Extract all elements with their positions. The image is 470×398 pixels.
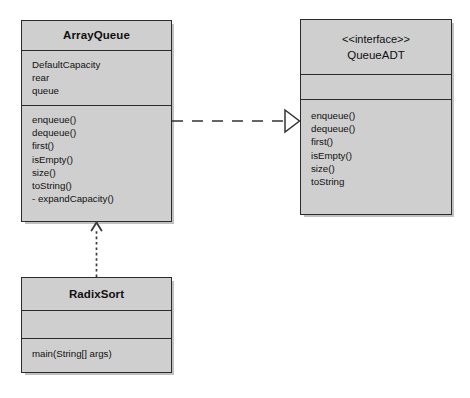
operations-compartment-queueadt: enqueue() dequeue() first() isEmpty() si… bbox=[301, 99, 451, 213]
operation-item: - expandCapacity() bbox=[32, 192, 171, 205]
attributes-compartment-queueadt bbox=[301, 74, 451, 99]
operation-item: enqueue() bbox=[32, 113, 171, 126]
class-name-radixsort: RadixSort bbox=[69, 287, 124, 302]
operations-compartment-radixsort: main(String[] args) bbox=[22, 338, 171, 371]
attribute-item: DefaultCapacity bbox=[32, 58, 171, 71]
operation-item: enqueue() bbox=[311, 109, 451, 122]
attributes-compartment-radixsort bbox=[22, 310, 171, 338]
class-box-radixsort[interactable]: RadixSort main(String[] args) bbox=[21, 277, 172, 373]
dependency-arrow-radixsort-to-arrayqueue bbox=[92, 223, 102, 278]
realization-arrow-arrayqueue-to-queueadt bbox=[172, 110, 300, 132]
operation-item: size() bbox=[32, 166, 171, 179]
operation-list-arrayqueue: enqueue() dequeue() first() isEmpty() si… bbox=[22, 106, 171, 205]
hollow-triangle-arrowhead-icon bbox=[285, 110, 300, 132]
class-box-arrayqueue[interactable]: ArrayQueue DefaultCapacity rear queue en… bbox=[21, 20, 172, 222]
operation-item: dequeue() bbox=[32, 126, 171, 139]
operation-list-radixsort: main(String[] args) bbox=[22, 339, 171, 360]
class-title-compartment-queueadt: <<interface>> QueueADT bbox=[301, 20, 451, 74]
attributes-compartment-arrayqueue: DefaultCapacity rear queue bbox=[22, 50, 171, 105]
operations-compartment-arrayqueue: enqueue() dequeue() first() isEmpty() si… bbox=[22, 105, 171, 220]
operation-item: size() bbox=[311, 162, 451, 175]
operation-item: first() bbox=[32, 139, 171, 152]
attribute-item: queue bbox=[32, 84, 171, 97]
class-name-queueadt: QueueADT bbox=[347, 47, 405, 63]
class-name-arrayqueue: ArrayQueue bbox=[63, 28, 130, 43]
operation-item: isEmpty() bbox=[32, 153, 171, 166]
uml-class-diagram: ArrayQueue DefaultCapacity rear queue en… bbox=[0, 0, 470, 398]
attribute-item: rear bbox=[32, 71, 171, 84]
operation-list-queueadt: enqueue() dequeue() first() isEmpty() si… bbox=[301, 100, 451, 188]
class-title-compartment-radixsort: RadixSort bbox=[22, 278, 171, 310]
operation-item: dequeue() bbox=[311, 122, 451, 135]
operation-item: toString bbox=[311, 175, 451, 188]
operation-item: toString() bbox=[32, 179, 171, 192]
class-box-queueadt[interactable]: <<interface>> QueueADT enqueue() dequeue… bbox=[300, 19, 452, 215]
operation-item: first() bbox=[311, 135, 451, 148]
operation-item: main(String[] args) bbox=[32, 347, 171, 360]
open-arrowhead-icon bbox=[92, 223, 102, 231]
operation-item: isEmpty() bbox=[311, 149, 451, 162]
attribute-list-arrayqueue: DefaultCapacity rear queue bbox=[22, 51, 171, 98]
stereotype-label-queueadt: <<interface>> bbox=[342, 31, 410, 47]
class-title-compartment-arrayqueue: ArrayQueue bbox=[22, 21, 171, 50]
